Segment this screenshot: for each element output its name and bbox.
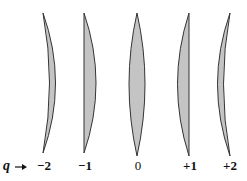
q-label-plus-1: +1 (178, 159, 202, 173)
lens-diagram (0, 0, 247, 181)
lens-q-0 (129, 13, 145, 156)
q-label-minus-1: −1 (73, 159, 97, 173)
q-axis-label: q (3, 158, 10, 174)
lens-q-minus-1 (84, 13, 96, 153)
q-label-0: 0 (126, 159, 150, 173)
q-label-minus-2: −2 (32, 159, 56, 173)
lens-q-plus-1 (178, 13, 190, 156)
lens-q-plus-2 (218, 13, 231, 156)
q-label-plus-2: +2 (218, 159, 242, 173)
lens-q-minus-2 (43, 13, 56, 153)
right-arrow-icon (15, 163, 27, 171)
